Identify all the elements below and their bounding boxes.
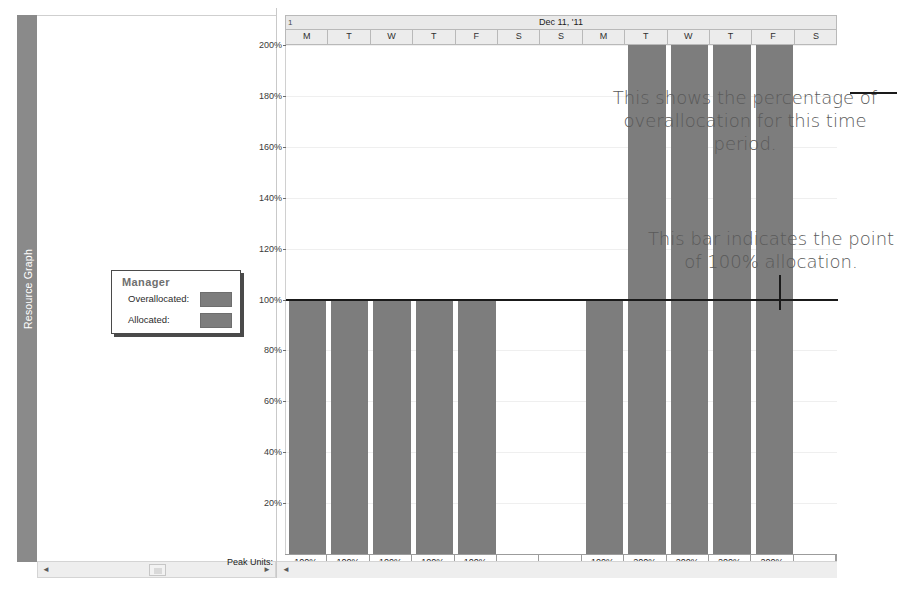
legend-swatch-overallocated bbox=[200, 292, 232, 307]
y-axis-tick-label: 60% bbox=[264, 396, 282, 406]
annotation-100-percent: This bar indicates the point of 100% all… bbox=[645, 227, 897, 273]
y-axis-tick-label: 80% bbox=[264, 345, 282, 355]
timescale-day-cell[interactable]: S bbox=[498, 30, 540, 44]
chart-gridline bbox=[286, 198, 837, 199]
y-axis-tick-label: 120% bbox=[259, 244, 282, 254]
legend-label-overallocated: Overallocated: bbox=[128, 293, 189, 304]
timescale-day-cell[interactable]: W bbox=[668, 30, 710, 44]
legend-box: Manager Overallocated: Allocated: bbox=[111, 270, 241, 334]
y-axis-tick-label: 40% bbox=[264, 447, 282, 457]
reference-line-100-percent bbox=[286, 299, 838, 301]
chart-pane: 1 Dec 11, '11 MTWTFSSMTWTFS 20%40%60%80%… bbox=[277, 8, 837, 560]
chart-gridline bbox=[286, 45, 837, 46]
y-axis-tick-label: 200% bbox=[259, 40, 282, 50]
annotation-leader-line-1 bbox=[850, 92, 897, 94]
chart-bar[interactable] bbox=[586, 300, 623, 555]
legend-pane: Manager Overallocated: Allocated: bbox=[37, 15, 276, 561]
chart-bar[interactable] bbox=[458, 300, 495, 555]
chart-bar[interactable] bbox=[416, 300, 453, 555]
chart-gridline bbox=[286, 350, 837, 351]
chart-gridline bbox=[286, 503, 837, 504]
y-axis-tick-label: 100% bbox=[259, 295, 282, 305]
timescale-date-label: Dec 11, '11 bbox=[539, 16, 583, 29]
timescale-day-cell[interactable]: F bbox=[752, 30, 794, 44]
y-axis-tick-label: 20% bbox=[264, 498, 282, 508]
y-axis-tick-label: 140% bbox=[259, 193, 282, 203]
timescale-period-number: 1 bbox=[288, 16, 292, 29]
annotation-leader-line-2 bbox=[779, 275, 781, 310]
view-tab-label: Resource Graph bbox=[22, 249, 34, 329]
chart-bar[interactable] bbox=[373, 300, 410, 555]
timescale-day-cell[interactable]: M bbox=[286, 30, 328, 44]
y-axis-tick-label: 160% bbox=[259, 142, 282, 152]
legend-label-allocated: Allocated: bbox=[128, 314, 170, 325]
timescale-day-cell[interactable]: W bbox=[371, 30, 413, 44]
y-axis-tick-label: 180% bbox=[259, 91, 282, 101]
chart-gridline bbox=[286, 452, 837, 453]
scroll-left-arrow-icon[interactable]: ◄ bbox=[38, 562, 54, 577]
view-tab-resource-graph[interactable]: Resource Graph bbox=[17, 15, 39, 562]
chart-bar[interactable] bbox=[331, 300, 368, 555]
annotation-overallocation: This shows the percentage of overallocat… bbox=[595, 86, 895, 155]
timescale-day-cell[interactable]: T bbox=[710, 30, 752, 44]
chart-horizontal-scrollbar[interactable]: ◄ bbox=[277, 561, 837, 578]
chart-gridline bbox=[286, 401, 837, 402]
timescale-days-row: MTWTFSSMTWTFS bbox=[285, 30, 837, 45]
legend-title: Manager bbox=[122, 276, 170, 288]
timescale-day-cell[interactable]: S bbox=[540, 30, 582, 44]
timescale-top-row: 1 Dec 11, '11 bbox=[285, 15, 837, 30]
legend-swatch-allocated bbox=[200, 313, 232, 328]
timescale-day-cell[interactable]: T bbox=[625, 30, 667, 44]
timescale-day-cell[interactable]: S bbox=[795, 30, 837, 44]
peak-units-label: Peak Units: bbox=[205, 554, 273, 570]
scrollbar-thumb[interactable] bbox=[149, 564, 166, 576]
timescale-day-cell[interactable]: T bbox=[328, 30, 370, 44]
chart-scroll-left-arrow-icon[interactable]: ◄ bbox=[279, 562, 293, 577]
chart-bar[interactable] bbox=[289, 300, 326, 555]
timescale-day-cell[interactable]: T bbox=[413, 30, 455, 44]
timescale-day-cell[interactable]: F bbox=[456, 30, 498, 44]
timescale-day-cell[interactable]: M bbox=[583, 30, 625, 44]
